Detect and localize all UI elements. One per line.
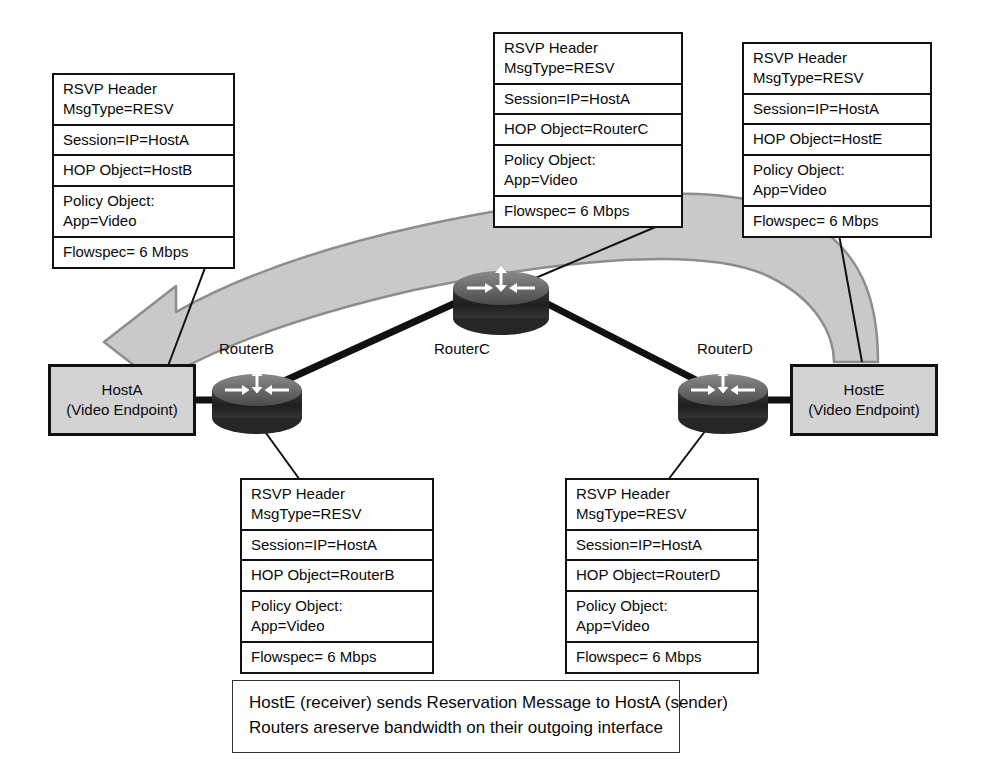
router-label-routerd: RouterD bbox=[697, 340, 753, 357]
leader-routerd-to-routerd bbox=[668, 422, 712, 480]
router-label-routerb: RouterB bbox=[219, 340, 274, 357]
packet-row: Session=IP=HostA bbox=[495, 85, 681, 116]
link-routerc-routerd bbox=[540, 300, 700, 382]
host-name-label: HostE bbox=[844, 380, 885, 400]
packet-row-line: App=Video bbox=[753, 180, 921, 200]
packet-row-line: MsgType=RESV bbox=[753, 68, 921, 88]
packet-row: HOP Object=RouterC bbox=[495, 115, 681, 146]
packet-row-line: Policy Object: bbox=[753, 160, 921, 180]
packet-row: Flowspec= 6 Mbps bbox=[495, 197, 681, 226]
packet-row-line: Policy Object: bbox=[504, 150, 672, 170]
packet-row-line: MsgType=RESV bbox=[251, 504, 423, 524]
packet-row-line: MsgType=RESV bbox=[576, 504, 748, 524]
packet-row-line: RSVP Header bbox=[504, 38, 672, 58]
router-label-routerc: RouterC bbox=[434, 340, 490, 357]
packet-row-line: HOP Object=HostE bbox=[753, 129, 921, 149]
packet-row-line: Policy Object: bbox=[251, 596, 423, 616]
packet-row-line: Flowspec= 6 Mbps bbox=[576, 647, 748, 667]
packet-row-line: Policy Object: bbox=[576, 596, 748, 616]
router-icon-routerb bbox=[212, 370, 302, 435]
packet-row-line: HOP Object=RouterD bbox=[576, 565, 748, 585]
packet-routerd: RSVP Header MsgType=RESV Session=IP=Host… bbox=[565, 478, 759, 674]
packet-row: Policy Object: App=Video bbox=[242, 592, 432, 643]
caption-box: HostE (receiver) sends Reservation Messa… bbox=[232, 680, 680, 753]
packet-row: Flowspec= 6 Mbps bbox=[567, 643, 757, 672]
packet-row-line: HOP Object=RouterB bbox=[251, 565, 423, 585]
packet-row-line: HOP Object=RouterC bbox=[504, 119, 672, 139]
packet-hoste: RSVP Header MsgType=RESV Session=IP=Host… bbox=[742, 42, 932, 238]
packet-row: Policy Object: App=Video bbox=[567, 592, 757, 643]
packet-row-line: Session=IP=HostA bbox=[63, 130, 224, 150]
packet-row: RSVP Header MsgType=RESV bbox=[54, 75, 233, 126]
leader-routerb-to-routerb bbox=[258, 422, 300, 480]
packet-row-line: RSVP Header bbox=[753, 48, 921, 68]
packet-row-line: HOP Object=HostB bbox=[63, 160, 224, 180]
packet-row-line: Flowspec= 6 Mbps bbox=[63, 242, 224, 262]
host-name-label: HostA bbox=[102, 380, 143, 400]
packet-row: Flowspec= 6 Mbps bbox=[54, 238, 233, 267]
host-role-label: (Video Endpoint) bbox=[66, 400, 177, 420]
packet-hostb: RSVP Header MsgType=RESV Session=IP=Host… bbox=[52, 73, 235, 269]
packet-row-line: Flowspec= 6 Mbps bbox=[504, 201, 672, 221]
host-box-hosta: HostA (Video Endpoint) bbox=[48, 364, 196, 436]
packet-row-line: MsgType=RESV bbox=[504, 58, 672, 78]
leader-hoste-to-hoste bbox=[836, 218, 862, 362]
packet-row: Session=IP=HostA bbox=[54, 126, 233, 157]
diagram-canvas: RSVP Header MsgType=RESV Session=IP=Host… bbox=[0, 0, 981, 775]
packet-row-line: Session=IP=HostA bbox=[251, 535, 423, 555]
packet-row-line: App=Video bbox=[504, 170, 672, 190]
caption-line-1: HostE (receiver) sends Reservation Messa… bbox=[249, 691, 663, 716]
packet-row-line: Session=IP=HostA bbox=[753, 99, 921, 119]
leader-routerc-to-routerc bbox=[512, 220, 672, 288]
packet-row-line: RSVP Header bbox=[576, 484, 748, 504]
packet-row-line: RSVP Header bbox=[251, 484, 423, 504]
packet-row-line: RSVP Header bbox=[63, 79, 224, 99]
router-icon-routerc bbox=[453, 266, 549, 335]
host-box-hoste: HostE (Video Endpoint) bbox=[790, 364, 938, 436]
caption-line-2: Routers areserve bandwidth on their outg… bbox=[249, 716, 663, 741]
packet-row: Policy Object: App=Video bbox=[744, 156, 930, 207]
host-role-label: (Video Endpoint) bbox=[808, 400, 919, 420]
packet-row: RSVP Header MsgType=RESV bbox=[744, 44, 930, 95]
packet-row: RSVP Header MsgType=RESV bbox=[495, 34, 681, 85]
packet-row-line: MsgType=RESV bbox=[63, 99, 224, 119]
packet-row-line: Flowspec= 6 Mbps bbox=[251, 647, 423, 667]
router-icon-routerd bbox=[678, 370, 768, 435]
packet-row: HOP Object=RouterD bbox=[567, 561, 757, 592]
packet-row: HOP Object=RouterB bbox=[242, 561, 432, 592]
packet-routerc: RSVP Header MsgType=RESV Session=IP=Host… bbox=[493, 32, 683, 228]
packet-routerb: RSVP Header MsgType=RESV Session=IP=Host… bbox=[240, 478, 434, 674]
packet-row-line: App=Video bbox=[251, 616, 423, 636]
packet-row-line: App=Video bbox=[63, 211, 224, 231]
packet-row: Session=IP=HostA bbox=[567, 531, 757, 562]
packet-row-line: App=Video bbox=[576, 616, 748, 636]
packet-row: HOP Object=HostB bbox=[54, 156, 233, 187]
packet-row-line: Session=IP=HostA bbox=[576, 535, 748, 555]
packet-row-line: Policy Object: bbox=[63, 191, 224, 211]
packet-row: RSVP Header MsgType=RESV bbox=[242, 480, 432, 531]
packet-row: RSVP Header MsgType=RESV bbox=[567, 480, 757, 531]
packet-row-line: Flowspec= 6 Mbps bbox=[753, 211, 921, 231]
packet-row: Session=IP=HostA bbox=[242, 531, 432, 562]
packet-row-line: Session=IP=HostA bbox=[504, 89, 672, 109]
packet-row: Session=IP=HostA bbox=[744, 95, 930, 126]
packet-row: HOP Object=HostE bbox=[744, 125, 930, 156]
leader-hostb-to-hosta bbox=[168, 252, 211, 366]
packet-row: Policy Object: App=Video bbox=[495, 146, 681, 197]
packet-row: Flowspec= 6 Mbps bbox=[744, 207, 930, 236]
packet-row: Policy Object: App=Video bbox=[54, 187, 233, 238]
packet-row: Flowspec= 6 Mbps bbox=[242, 643, 432, 672]
